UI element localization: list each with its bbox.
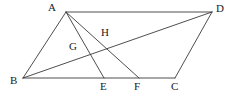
vertex-label-H: H [101,27,109,38]
segment-diagonal-BD [23,12,212,78]
segments-group [23,12,212,78]
segment-side-DC [175,12,212,78]
segment-side-AB [23,12,66,78]
vertex-label-G: G [69,41,77,52]
vertex-label-C: C [171,81,178,92]
vertex-label-D: D [216,3,224,14]
vertex-label-E: E [100,81,107,92]
geometry-figure: A D H G B E F C [0,0,242,97]
vertex-label-A: A [48,2,56,13]
vertex-label-B: B [10,75,17,86]
vertex-label-F: F [134,81,140,92]
geometry-canvas [0,0,242,97]
